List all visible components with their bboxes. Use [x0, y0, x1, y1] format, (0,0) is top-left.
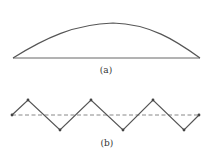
vertex-dot	[122, 129, 125, 132]
figure-b-label: (b)	[101, 138, 114, 148]
vertex-dot	[59, 129, 62, 132]
figure-a-arch-curve	[13, 23, 200, 58]
vertex-dot	[183, 129, 186, 132]
diagram-canvas: (a) (b)	[0, 0, 215, 151]
figure-a-label: (a)	[100, 65, 112, 75]
vertex-dot	[198, 114, 201, 117]
figure-b: (b)	[11, 99, 201, 148]
figure-a: (a)	[13, 23, 200, 75]
vertex-dot	[90, 99, 93, 102]
vertex-dot	[11, 114, 14, 117]
vertex-dot	[27, 99, 30, 102]
vertex-dot	[152, 99, 155, 102]
